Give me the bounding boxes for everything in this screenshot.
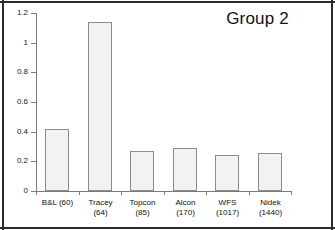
- y-axis-tick-label: 1: [24, 39, 28, 47]
- y-axis-tick-label: 0.2: [17, 157, 28, 165]
- bar-chart-figure: 00.20.40.60.811.2 B&L (60)Tracey(64)Topc…: [0, 0, 335, 230]
- bar: [173, 148, 197, 191]
- x-axis-category-label-line1: Tracey: [88, 198, 112, 207]
- bar: [130, 151, 154, 191]
- x-axis-category-label-line1: Nidek: [260, 198, 280, 207]
- y-axis-tick-mark: [31, 43, 36, 44]
- x-axis-category-label-line2: (1440): [249, 208, 292, 218]
- x-axis-category-label: Nidek(1440): [249, 198, 292, 218]
- bar: [258, 153, 282, 191]
- x-axis-tick-mark: [249, 191, 250, 195]
- x-axis-category-label: B&L (60): [36, 198, 79, 208]
- x-axis-category-label-line1: B&L (60): [42, 198, 73, 207]
- y-axis-line: [36, 13, 37, 191]
- x-axis-category-label-line1: Topcon: [130, 198, 156, 207]
- y-axis-tick-label: 1.2: [17, 9, 28, 17]
- bar: [45, 129, 69, 191]
- x-axis-category-label-line1: WFS: [219, 198, 237, 207]
- chart-title: Group 2: [226, 9, 289, 29]
- y-axis-tick-mark: [31, 13, 36, 14]
- figure-border-top: [0, 1, 335, 3]
- x-axis-category-label-line2: (170): [164, 208, 207, 218]
- x-axis-tick-mark: [36, 191, 37, 195]
- figure-border-right: [331, 0, 333, 230]
- x-axis-tick-mark: [79, 191, 80, 195]
- y-axis-tick-label: 0.4: [17, 128, 28, 136]
- x-axis-category-label: Alcon(170): [164, 198, 207, 218]
- x-axis-category-label-line1: Alcon: [175, 198, 195, 207]
- x-axis-tick-mark: [206, 191, 207, 195]
- x-axis-tick-mark: [164, 191, 165, 195]
- y-axis-tick-mark: [31, 72, 36, 73]
- x-axis-category-label: Tracey(64): [79, 198, 122, 218]
- x-axis-category-label-line2: (1017): [206, 208, 249, 218]
- x-axis-category-label: Topcon(85): [121, 198, 164, 218]
- bar: [88, 22, 112, 191]
- y-axis-tick-mark: [31, 161, 36, 162]
- x-axis-tick-mark: [121, 191, 122, 195]
- x-axis-tick-mark: [291, 191, 292, 195]
- plot-area: [36, 13, 286, 191]
- y-axis-tick-mark: [31, 102, 36, 103]
- y-axis-tick-label: 0.6: [17, 98, 28, 106]
- x-axis-category-label-line2: (64): [79, 208, 122, 218]
- y-axis-tick-label: 0.8: [17, 68, 28, 76]
- figure-border-left: [2, 0, 4, 230]
- figure-border-bottom: [0, 227, 335, 229]
- x-axis-category-label: WFS(1017): [206, 198, 249, 218]
- bar: [215, 155, 239, 191]
- y-axis-tick-mark: [31, 132, 36, 133]
- y-axis-tick-label: 0: [24, 187, 28, 195]
- x-axis-category-label-line2: (85): [121, 208, 164, 218]
